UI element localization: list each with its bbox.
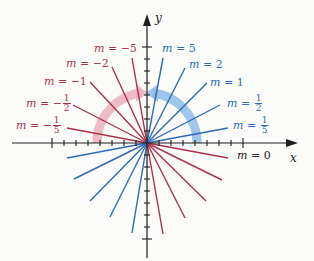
fraction: 15 [261,116,269,135]
label-m-pos-half: m = 12 [227,94,262,113]
label-m-neg5: m = −5 [94,43,137,54]
label-m-zero: m = 0 [237,150,271,161]
x-axis-arrow-icon [286,139,298,147]
label-m-neg1: m = −1 [44,76,87,87]
y-axis-label: y [155,12,162,24]
x-axis-label: x [290,152,297,164]
axes [12,20,292,258]
label-m-pos2: m = 2 [189,59,223,70]
label-m-neg-fifth: m = −15 [16,116,61,135]
negative-slope-arc [97,84,148,143]
slope-diagram: y x m = −5 m = −2 m = −1 m = −12 m = −15… [0,0,314,261]
fraction: 12 [255,94,263,113]
positive-slope-arc [146,84,197,143]
label-m-pos5: m = 5 [162,43,196,54]
label-m-pos-fifth: m = 15 [233,116,268,135]
fraction: 15 [53,116,61,135]
fraction: 12 [63,94,71,113]
y-axis-arrow-icon [143,14,151,26]
label-m-neg2: m = −2 [66,58,109,69]
label-m-neg-half: m = −12 [26,94,71,113]
label-m-pos1: m = 1 [210,77,244,88]
